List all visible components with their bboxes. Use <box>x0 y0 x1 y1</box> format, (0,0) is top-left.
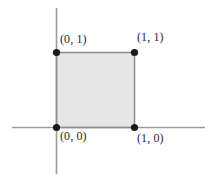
vertex-label-0-1: (0, 1) <box>60 33 87 45</box>
vertex-label-1-1: (1, 1) <box>137 31 164 43</box>
vertex-label-0-0: (0, 0) <box>60 130 87 142</box>
vertex-label-1-0: (1, 0) <box>137 132 164 144</box>
unit-square-figure: (0, 1) (1, 1) (0, 0) (1, 0) <box>0 0 218 182</box>
coordinate-plane-svg <box>0 0 218 182</box>
vertex-dot-0-1 <box>53 49 60 56</box>
vertex-dot-1-1 <box>131 49 138 56</box>
unit-square-fill <box>57 53 135 128</box>
